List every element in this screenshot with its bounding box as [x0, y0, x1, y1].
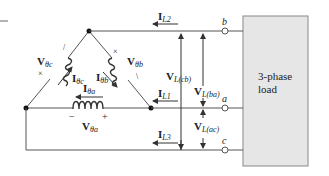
load-label-line2: load: [258, 83, 277, 95]
delta-circuit-diagram: 3-phase load b a c IL2 IL1 IL3 VL(cb) VL…: [0, 0, 329, 176]
coil-a-icon: [73, 102, 103, 110]
delta-left-wire-upper: [68, 31, 89, 58]
delta-right-wire-upper: [89, 31, 112, 58]
mark-b-slash: \: [136, 72, 139, 81]
mark-a-plus: +: [102, 111, 108, 122]
label-Va: Vθa: [82, 120, 98, 134]
mark-b-cross: ×: [113, 47, 118, 56]
label-Vb: Vθb: [127, 55, 143, 69]
terminal-a-label: a: [222, 93, 227, 104]
arrow-Ic-icon: [58, 67, 72, 85]
label-Ib: Iθb: [96, 71, 108, 85]
label-IL2: IL2: [158, 10, 171, 24]
terminal-a: [222, 105, 228, 111]
mark-a-minus: −: [69, 111, 75, 122]
load-label-line1: 3-phase: [258, 70, 292, 82]
mark-c-cross: ×: [38, 69, 43, 78]
delta-left-wire-lower: [26, 79, 50, 108]
terminal-b-label: b: [222, 16, 227, 27]
label-Vcb: VL(cb): [166, 70, 192, 84]
label-Vba: VL(ba): [194, 85, 220, 99]
label-Ia: Iθa: [83, 82, 95, 96]
delta-right-wire-lower: [128, 80, 151, 108]
terminal-b: [222, 28, 228, 34]
label-IL3: IL3: [158, 128, 171, 142]
label-IL1: IL1: [158, 87, 171, 101]
mark-c-slash: /: [63, 43, 66, 52]
label-Vac: VL(ac): [194, 120, 220, 134]
terminal-c-label: c: [222, 135, 227, 146]
terminal-c: [222, 147, 228, 153]
label-Vc: Vθc: [37, 55, 53, 69]
